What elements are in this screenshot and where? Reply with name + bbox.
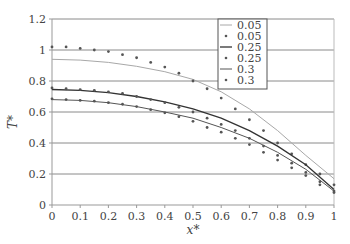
y-tick-label: 0 [39,199,46,212]
legend-marker-swatch [225,79,228,82]
series-marker-0.05 [248,118,251,121]
series-marker-0.25 [192,111,195,114]
x-tick-label: 0.9 [297,210,315,223]
series-marker-0.3 [304,174,307,177]
series-marker-0.05 [107,50,110,53]
series-marker-0.3 [276,159,279,162]
series-marker-0.05 [333,183,336,186]
axes [49,19,334,208]
y-tick-label: 0.8 [29,75,47,88]
series-marker-0.25 [149,98,152,101]
legend-marker-swatch [225,35,228,38]
x-tick-label: 0.8 [269,210,287,223]
legend: 0.050.050.250.250.30.3 [218,19,267,89]
series-marker-0.3 [206,126,209,129]
series-marker-0.25 [135,95,138,98]
series-marker-0.25 [121,92,124,95]
series-marker-0.3 [65,98,68,101]
series-marker-0.05 [149,61,152,64]
chart: 00.20.40.60.811.200.10.20.30.40.50.60.70… [0,0,350,244]
series-marker-0.05 [79,47,82,50]
series-marker-0.25 [206,117,209,120]
series-marker-0.3 [135,105,138,108]
legend-marker-swatch [225,57,228,60]
series-marker-0.3 [234,137,237,140]
series-marker-0.05 [93,49,96,52]
series-marker-0.05 [163,66,166,69]
x-axis-label: x* [187,223,200,237]
x-tick-label: 1 [331,210,338,223]
legend-label: 0.3 [237,74,255,87]
series-marker-0.05 [319,173,322,176]
series-marker-0.3 [319,183,322,186]
series-marker-0.3 [51,97,54,100]
x-tick-label: 0.4 [156,210,174,223]
series-marker-0.25 [178,106,181,109]
series-marker-0.05 [234,108,237,111]
y-tick-label: 0.4 [29,137,47,150]
series-marker-0.25 [290,162,293,165]
series-marker-0.05 [220,97,223,100]
y-tick-label: 1 [39,44,46,57]
series-marker-0.05 [121,53,124,56]
x-tick-label: 0.7 [241,210,259,223]
series-marker-0.25 [234,129,237,132]
series-marker-0.3 [333,191,336,194]
x-tick-label: 0.2 [100,210,118,223]
series-marker-0.25 [304,171,307,174]
x-tick-label: 0.6 [212,210,230,223]
x-tick-label: 0.3 [128,210,146,223]
series-marker-0.25 [276,154,279,157]
series-marker-0.3 [248,143,251,146]
series-marker-0.3 [79,99,82,102]
tick-labels: 00.20.40.60.811.200.10.20.30.40.50.60.70… [29,13,338,223]
y-axis-label: T* [6,115,20,129]
series-marker-0.05 [51,46,54,49]
series-marker-0.25 [65,87,68,90]
series-marker-0.25 [107,90,110,93]
series-marker-0.3 [262,151,265,154]
series-marker-0.25 [163,101,166,104]
series-marker-0.3 [178,115,181,118]
grid-lines [52,19,334,174]
series-marker-0.05 [192,80,195,83]
series-marker-0.05 [262,129,265,132]
series-marker-0.3 [93,100,96,103]
x-tick-label: 0.5 [184,210,202,223]
y-tick-label: 1.2 [29,13,47,26]
series-marker-0.3 [149,108,152,111]
data-series [51,46,336,195]
y-tick-label: 0.2 [29,168,47,181]
series-marker-0.3 [220,131,223,134]
series-marker-0.25 [51,87,54,90]
series-marker-0.3 [107,101,110,104]
series-marker-0.05 [65,46,68,49]
series-marker-0.25 [93,89,96,92]
x-tick-label: 0.1 [71,210,89,223]
series-marker-0.05 [276,142,279,145]
y-tick-label: 0.6 [29,106,47,119]
series-marker-0.25 [79,88,82,91]
series-marker-0.25 [220,123,223,126]
series-marker-0.3 [192,120,195,123]
series-marker-0.3 [121,103,124,106]
series-marker-0.05 [135,56,138,59]
series-marker-0.3 [290,166,293,169]
series-marker-0.3 [163,111,166,114]
series-marker-0.05 [178,72,181,75]
series-marker-0.05 [206,87,209,90]
x-tick-label: 0 [49,210,56,223]
